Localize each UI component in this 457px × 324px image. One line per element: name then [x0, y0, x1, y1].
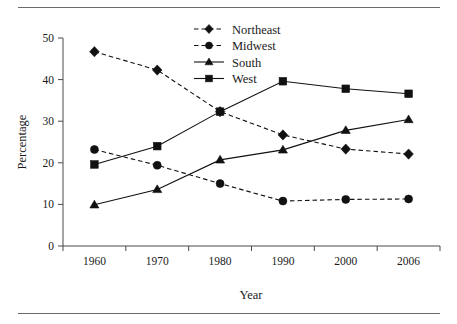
data-point-west [153, 142, 161, 150]
data-point-midwest [90, 145, 98, 153]
data-series-group [90, 47, 414, 208]
x-axis-title: Year [239, 288, 263, 302]
legend-marker-triangle-icon [205, 58, 213, 65]
y-axis-ticks: 01020304050 [43, 32, 64, 252]
data-point-midwest [279, 197, 287, 205]
legend-marker-diamond-icon [205, 24, 213, 33]
data-point-west [91, 161, 99, 169]
x-tick-label: 1980 [209, 255, 232, 267]
data-point-northeast [404, 149, 414, 159]
data-point-northeast [90, 47, 100, 57]
data-point-midwest [153, 161, 161, 169]
data-point-south [404, 115, 413, 123]
legend-label-midwest: Midwest [232, 39, 276, 53]
legend-label-south: South [232, 56, 262, 70]
legend-marker-circle-icon [205, 42, 212, 49]
y-tick-label: 10 [43, 198, 55, 210]
data-point-midwest [342, 195, 350, 203]
y-tick-label: 20 [43, 157, 55, 169]
legend-item-midwest[interactable]: Midwest [194, 39, 276, 53]
series-south [90, 115, 413, 208]
data-point-midwest [405, 195, 413, 203]
data-point-west [279, 77, 287, 85]
legend-item-northeast[interactable]: Northeast [194, 23, 281, 37]
chart-legend: NortheastMidwestSouthWest [194, 23, 281, 87]
data-point-west [342, 85, 350, 93]
legend-label-west: West [232, 72, 257, 86]
line-chart: 01020304050 196019701980199020002006 Nor… [0, 0, 457, 324]
x-tick-label: 1990 [271, 255, 294, 267]
legend-label-northeast: Northeast [232, 23, 281, 37]
x-tick-label: 2006 [397, 255, 420, 267]
legend-item-south[interactable]: South [194, 56, 262, 70]
x-tick-label: 1970 [146, 255, 169, 267]
data-point-west [405, 90, 413, 98]
x-axis-ticks: 196019701980199020002006 [63, 246, 440, 267]
data-point-northeast [152, 65, 162, 75]
data-point-northeast [341, 144, 351, 154]
x-tick-label: 1960 [83, 255, 106, 267]
figure-container: 01020304050 196019701980199020002006 Nor… [0, 0, 457, 324]
y-tick-label: 40 [43, 74, 55, 86]
data-point-northeast [278, 130, 288, 140]
y-tick-label: 50 [43, 32, 55, 44]
data-point-west [216, 108, 224, 116]
legend-item-west[interactable]: West [194, 72, 257, 86]
y-tick-label: 0 [48, 240, 54, 252]
y-axis-title: Percentage [15, 114, 29, 169]
series-line-south [94, 120, 408, 205]
y-tick-label: 30 [43, 115, 55, 127]
legend-marker-square-icon [206, 75, 213, 82]
data-point-south [153, 185, 162, 193]
data-point-midwest [216, 180, 224, 188]
x-tick-label: 2000 [334, 255, 357, 267]
